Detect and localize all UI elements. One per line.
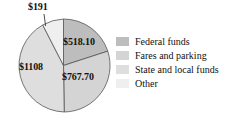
- legend-item-fares-and-parking: Fares and parking: [116, 49, 219, 61]
- pie-label-other: $191: [28, 1, 48, 12]
- legend-swatch-icon: [116, 37, 129, 46]
- legend-swatch-icon: [116, 79, 129, 88]
- pie-chart-figure: $518.10 $767.70 $1108 $191 Federal funds…: [0, 0, 233, 122]
- legend-item-other: Other: [116, 77, 219, 89]
- legend-label: Other: [135, 78, 158, 89]
- legend-swatch-icon: [116, 51, 129, 60]
- legend-label: Fares and parking: [135, 50, 207, 61]
- chart-legend: Federal funds Fares and parking State an…: [116, 35, 219, 89]
- legend-swatch-icon: [116, 65, 129, 74]
- legend-item-federal-funds: Federal funds: [116, 35, 219, 47]
- legend-label: State and local funds: [135, 64, 219, 75]
- pie-label-state-and-local-funds: $1108: [19, 61, 43, 72]
- pie-label-federal-funds: $518.10: [63, 36, 95, 47]
- legend-label: Federal funds: [135, 36, 190, 47]
- legend-item-state-and-local-funds: State and local funds: [116, 63, 219, 75]
- pie-label-fares-and-parking: $767.70: [62, 71, 94, 82]
